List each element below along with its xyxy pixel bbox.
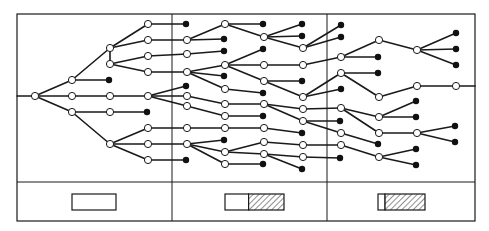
open-node-icon — [106, 140, 113, 147]
filled-node-icon — [337, 155, 343, 161]
legend-bar-panel-1 — [72, 194, 116, 210]
open-node-icon — [183, 140, 190, 147]
filled-node-icon — [299, 130, 305, 136]
tree-edge — [72, 112, 110, 144]
tree-edge — [187, 65, 225, 72]
open-node-icon — [452, 82, 459, 89]
tree-edge — [187, 96, 225, 104]
filled-node-icon — [338, 86, 344, 92]
open-node-icon — [337, 104, 344, 111]
tree-edge — [379, 40, 417, 50]
tree-edge — [379, 149, 416, 157]
tree-edge — [303, 57, 341, 65]
tree-edge — [264, 128, 302, 133]
open-node-icon — [375, 113, 382, 120]
tree-edge — [72, 48, 110, 80]
filled-node-icon — [413, 114, 419, 120]
diagram-canvas — [0, 0, 489, 231]
open-node-icon — [337, 129, 344, 136]
open-node-icon — [221, 112, 228, 119]
open-node-icon — [299, 141, 306, 148]
open-node-icon — [375, 36, 382, 43]
open-node-icon — [183, 50, 190, 57]
filled-node-icon — [106, 77, 112, 83]
tree-edge — [264, 81, 303, 97]
open-node-icon — [337, 53, 344, 60]
legend-hatched-segment — [249, 194, 284, 210]
filled-node-icon — [375, 141, 381, 147]
tree-edge — [187, 144, 225, 152]
tree-edge — [303, 37, 341, 48]
filled-node-icon — [452, 123, 458, 129]
legend-bar-panel-2 — [225, 194, 284, 210]
filled-node-icon — [299, 166, 305, 172]
tree-edge — [148, 54, 187, 56]
filled-node-icon — [183, 83, 189, 89]
filled-node-icon — [183, 157, 189, 163]
open-node-icon — [68, 92, 75, 99]
open-node-icon — [183, 92, 190, 99]
open-node-icon — [144, 140, 151, 147]
open-node-icon — [221, 85, 228, 92]
tree-edge — [417, 33, 456, 50]
tree-edge — [264, 142, 303, 145]
open-node-icon — [221, 100, 228, 107]
open-node-icon — [260, 77, 267, 84]
open-node-icon — [260, 33, 267, 40]
filled-node-icon — [221, 137, 227, 143]
tree-edges — [17, 24, 475, 169]
filled-node-icon — [413, 146, 419, 152]
tree-edge — [35, 96, 72, 112]
legend-hatched-segment — [385, 194, 425, 210]
open-node-icon — [144, 52, 151, 59]
open-node-icon — [299, 61, 306, 68]
open-node-icon — [260, 61, 267, 68]
filled-node-icon — [413, 162, 419, 168]
open-node-icon — [260, 124, 267, 131]
tree-edge — [303, 157, 340, 158]
open-node-icon — [144, 124, 151, 131]
open-node-icon — [106, 92, 113, 99]
open-node-icon — [106, 60, 113, 67]
tree-edge — [225, 65, 264, 81]
tree-edge — [225, 142, 264, 152]
open-node-icon — [106, 108, 113, 115]
tree-edge — [225, 152, 264, 154]
open-node-icon — [299, 44, 306, 51]
tree-edge — [341, 145, 379, 157]
filled-node-icon — [453, 46, 459, 52]
tree-edge — [148, 96, 187, 106]
tree-edge — [148, 86, 186, 96]
open-node-icon — [183, 124, 190, 131]
open-node-icon — [221, 160, 228, 167]
filled-node-icon — [452, 139, 458, 145]
filled-node-icon — [299, 78, 305, 84]
tree-edge — [341, 133, 378, 144]
tree-edge — [379, 86, 417, 97]
filled-node-icon — [260, 90, 266, 96]
tree-edge — [341, 40, 379, 57]
tree-edge — [379, 101, 416, 117]
filled-node-icon — [221, 48, 227, 54]
tree-edge — [187, 140, 224, 144]
filled-node-icon — [453, 62, 459, 68]
tree-edge — [264, 24, 302, 37]
tree-edge — [417, 133, 455, 142]
filled-node-icon — [299, 21, 305, 27]
filled-node-icon — [413, 98, 419, 104]
open-node-icon — [260, 100, 267, 107]
tree-edge — [35, 80, 72, 96]
open-node-icon — [413, 82, 420, 89]
filled-node-icon — [260, 46, 266, 52]
filled-node-icon — [144, 109, 150, 115]
open-node-icon — [144, 36, 151, 43]
tree-edge — [379, 157, 416, 165]
filled-node-icon — [183, 21, 189, 27]
open-node-icon — [183, 36, 190, 43]
legend-open-segment — [225, 194, 249, 210]
filled-node-icon — [375, 70, 381, 76]
tree-edge — [264, 37, 303, 48]
open-node-icon — [221, 20, 228, 27]
tree-edge — [225, 89, 263, 93]
branching-tree-diagram — [0, 0, 489, 231]
